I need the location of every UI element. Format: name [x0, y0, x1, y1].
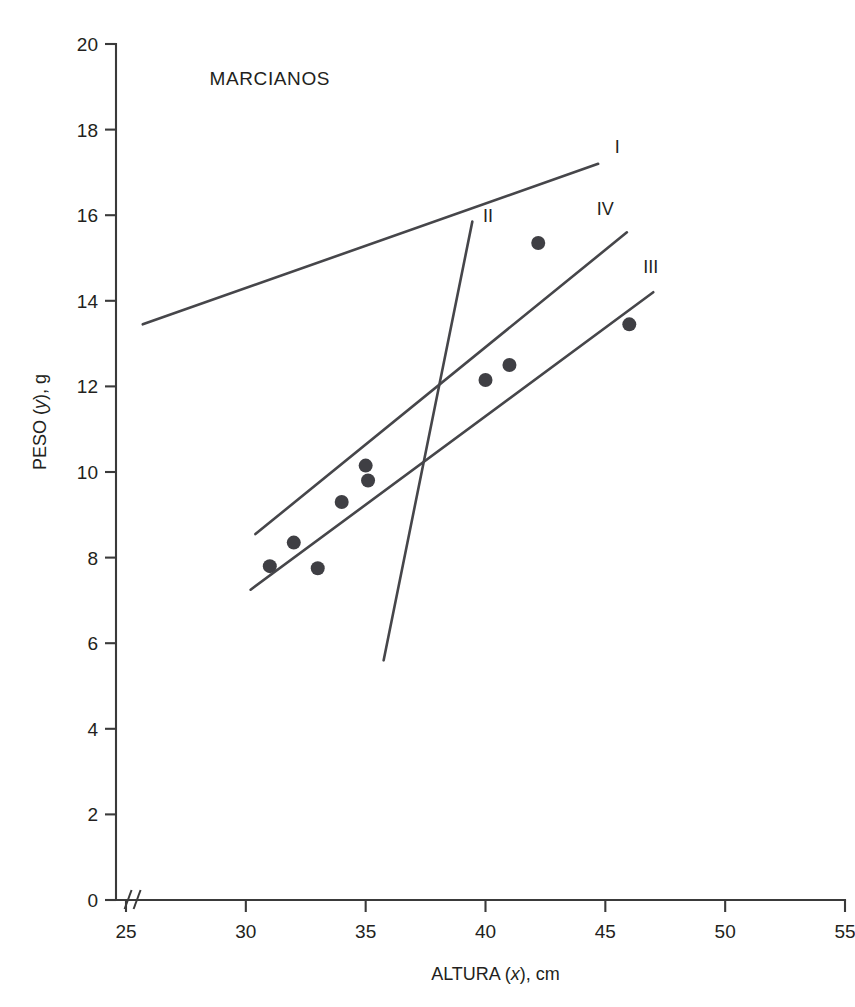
data-point: [479, 373, 493, 387]
regression-line-III: [251, 292, 654, 589]
tick-labels: 0246810121416182025303540455055: [77, 34, 855, 942]
data-point: [361, 474, 375, 488]
y-tick-label-10: 10: [77, 462, 98, 483]
y-tick-label-6: 6: [87, 633, 98, 654]
chart-title: MARCIANOS: [210, 68, 330, 89]
x-tick-label-25: 25: [115, 921, 136, 942]
y-axis-title: PESO (y), g: [30, 374, 50, 470]
scatter-plot-canvas: 0246810121416182025303540455055 IIIIIIIV…: [0, 0, 855, 1007]
data-point: [335, 495, 349, 509]
data-points: [263, 236, 637, 575]
y-axis-unit: g: [30, 374, 50, 384]
regression-line-I: [143, 164, 598, 325]
data-point: [287, 536, 301, 550]
x-tick-label-45: 45: [595, 921, 616, 942]
x-axis-unit: cm: [536, 964, 560, 984]
series-label-IV: IV: [597, 199, 614, 219]
data-point: [263, 559, 277, 573]
x-tick-label-40: 40: [475, 921, 496, 942]
x-tick-label-50: 50: [715, 921, 736, 942]
x-tick-label-35: 35: [355, 921, 376, 942]
series-label-I: I: [615, 137, 620, 157]
series-label-III: III: [643, 257, 658, 277]
series-label-II: II: [483, 206, 493, 226]
y-tick-label-8: 8: [87, 548, 98, 569]
series-labels: IIIIIIIV: [483, 137, 658, 277]
data-point: [311, 561, 325, 575]
y-tick-label-12: 12: [77, 376, 98, 397]
y-tick-label-2: 2: [87, 804, 98, 825]
axis-ticks: [105, 44, 845, 912]
chart-figure: 0246810121416182025303540455055 IIIIIIIV…: [0, 0, 855, 1007]
regression-line-IV: [255, 232, 626, 534]
y-tick-label-0: 0: [87, 890, 98, 911]
regression-lines: [143, 164, 653, 660]
y-tick-label-20: 20: [77, 34, 98, 55]
y-tick-label-4: 4: [87, 719, 98, 740]
data-point: [531, 236, 545, 250]
y-tick-label-16: 16: [77, 205, 98, 226]
data-point: [622, 317, 636, 331]
y-tick-label-14: 14: [77, 291, 99, 312]
axes: [116, 44, 845, 909]
data-point: [502, 358, 516, 372]
data-point: [359, 459, 373, 473]
axis-lines: [116, 44, 845, 900]
x-tick-label-30: 30: [235, 921, 256, 942]
y-axis-title-name: PESO: [30, 420, 50, 470]
x-tick-label-55: 55: [834, 921, 855, 942]
y-tick-label-18: 18: [77, 120, 98, 141]
x-axis-title: ALTURA (x), cm: [431, 964, 560, 984]
x-axis-title-name: ALTURA: [431, 964, 501, 984]
regression-line-II: [384, 222, 473, 661]
